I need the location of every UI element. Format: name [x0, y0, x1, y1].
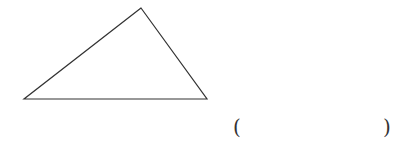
triangle-shape — [24, 8, 207, 99]
answer-open-paren: ( — [233, 117, 241, 137]
diagram-canvas: ( ) — [0, 0, 410, 151]
answer-close-paren: ) — [383, 117, 391, 137]
triangle-figure — [0, 0, 410, 151]
